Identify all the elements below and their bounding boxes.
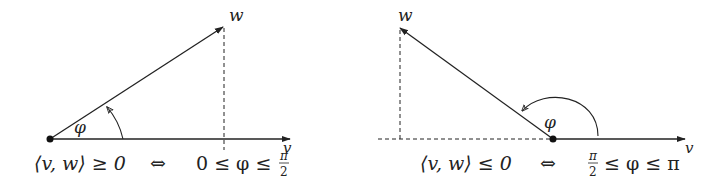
right-w-label: w [398,5,413,25]
left-angle-label: φ [74,117,86,137]
right-equation-rhs: ≤ φ ≤ π [604,152,680,174]
left-panel: w v φ ⟨v, w⟩ ≥ 0 ⇔ 0 ≤ φ ≤ π 2 [34,5,292,179]
left-equation-rhs: 0 ≤ φ ≤ [196,152,271,174]
left-w-label: w [229,5,244,25]
right-angle-label: φ [544,112,556,132]
right-w-vector [400,28,553,139]
right-fraction-den: 2 [589,165,597,179]
right-v-label: v [685,139,694,157]
right-equivalence: ⇔ [540,152,556,174]
left-angle-arc [107,107,123,139]
left-equation-lhs: ⟨v, w⟩ ≥ 0 [34,152,126,174]
right-equation-lhs: ⟨v, w⟩ ≤ 0 [420,152,512,174]
right-angle-arc [522,97,598,136]
left-origin-dot [47,136,54,143]
right-origin-dot [550,136,557,143]
right-panel: w v φ ⟨v, w⟩ ≤ 0 ⇔ π 2 ≤ φ ≤ π [378,5,694,179]
right-fraction-num: π [588,149,598,163]
left-fraction-den: 2 [280,165,288,179]
left-fraction-num: π [279,149,289,163]
left-equivalence: ⇔ [150,152,166,174]
diagram-canvas: w v φ ⟨v, w⟩ ≥ 0 ⇔ 0 ≤ φ ≤ π 2 w v φ ⟨v,… [0,0,726,190]
